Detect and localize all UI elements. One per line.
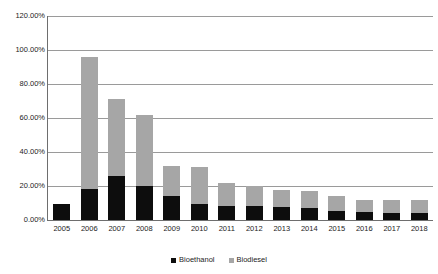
y-tick-label: 60.00% xyxy=(1,114,45,122)
bar-segment-biodiesel xyxy=(246,186,263,206)
legend-swatch-icon xyxy=(229,258,234,263)
bar-segment-biodiesel xyxy=(411,200,428,213)
y-tick-label: 20.00% xyxy=(1,182,45,190)
x-tick-label: 2014 xyxy=(294,224,324,234)
y-axis: 120.00%100.00%80.00%60.00%40.00%20.00%0.… xyxy=(0,0,45,274)
bar-segment-bioethanol xyxy=(108,176,125,220)
bar-segment-bioethanol xyxy=(246,206,263,220)
bar-segment-bioethanol xyxy=(191,204,208,220)
bar-segment-bioethanol xyxy=(273,207,290,220)
bar-group xyxy=(328,16,345,220)
bar-segment-biodiesel xyxy=(108,99,125,176)
bar-group xyxy=(301,16,318,220)
chart-legend: BioethanolBiodiesel xyxy=(0,256,438,264)
bar-segment-bioethanol xyxy=(163,196,180,220)
x-tick-label: 2008 xyxy=(129,224,159,234)
bars-layer xyxy=(48,16,433,220)
chart-title xyxy=(0,0,438,1)
bar-group xyxy=(81,16,98,220)
bar-group xyxy=(163,16,180,220)
x-tick-label: 2005 xyxy=(47,224,77,234)
bar-segment-biodiesel xyxy=(301,191,318,208)
bar-group xyxy=(246,16,263,220)
bar-group xyxy=(356,16,373,220)
bar-segment-bioethanol xyxy=(136,186,153,220)
bar-group xyxy=(191,16,208,220)
y-tick-label: 0.00% xyxy=(1,216,45,224)
bar-group xyxy=(273,16,290,220)
bar-group xyxy=(218,16,235,220)
bar-segment-biodiesel xyxy=(356,200,373,212)
bar-segment-biodiesel xyxy=(383,200,400,213)
bar-segment-biodiesel xyxy=(163,166,180,197)
x-tick-label: 2007 xyxy=(102,224,132,234)
x-tick-label: 2006 xyxy=(74,224,104,234)
bar-group xyxy=(383,16,400,220)
bar-segment-bioethanol xyxy=(301,208,318,220)
legend-entry-biodiesel[interactable]: Biodiesel xyxy=(229,256,267,264)
x-axis: 2005200620072008200920102011201220132014… xyxy=(48,224,433,238)
bar-segment-bioethanol xyxy=(328,211,345,220)
bar-segment-biodiesel xyxy=(136,115,153,186)
legend-label: Bioethanol xyxy=(179,256,214,264)
legend-entry-bioethanol[interactable]: Bioethanol xyxy=(171,256,214,264)
x-tick-label: 2010 xyxy=(184,224,214,234)
bar-group xyxy=(53,16,70,220)
bar-segment-bioethanol xyxy=(411,213,428,220)
x-tick-label: 2018 xyxy=(404,224,434,234)
bar-segment-bioethanol xyxy=(81,189,98,220)
y-tick-label: 40.00% xyxy=(1,148,45,156)
y-tick-label: 80.00% xyxy=(1,80,45,88)
x-tick-label: 2011 xyxy=(212,224,242,234)
x-tick-label: 2012 xyxy=(239,224,269,234)
bar-segment-biodiesel xyxy=(81,57,98,190)
bar-segment-bioethanol xyxy=(218,206,235,220)
x-tick-label: 2015 xyxy=(322,224,352,234)
y-tick-label: 120.00% xyxy=(1,12,45,20)
bar-segment-biodiesel xyxy=(273,190,290,207)
x-tick-label: 2016 xyxy=(349,224,379,234)
bar-segment-bioethanol xyxy=(53,204,70,220)
legend-swatch-icon xyxy=(171,258,176,263)
x-tick-label: 2009 xyxy=(157,224,187,234)
y-tick-label: 100.00% xyxy=(1,46,45,54)
bar-group xyxy=(136,16,153,220)
bar-segment-bioethanol xyxy=(383,213,400,220)
bar-segment-bioethanol xyxy=(356,212,373,220)
stacked-bar-chart: 120.00%100.00%80.00%60.00%40.00%20.00%0.… xyxy=(0,0,438,274)
bar-segment-biodiesel xyxy=(328,196,345,210)
x-tick-label: 2017 xyxy=(377,224,407,234)
bar-group xyxy=(108,16,125,220)
x-tick-label: 2013 xyxy=(267,224,297,234)
gridline xyxy=(48,220,433,221)
bar-segment-biodiesel xyxy=(191,167,208,204)
plot-area xyxy=(48,16,433,220)
bar-segment-biodiesel xyxy=(218,183,235,206)
bar-group xyxy=(411,16,428,220)
legend-label: Biodiesel xyxy=(237,256,267,264)
